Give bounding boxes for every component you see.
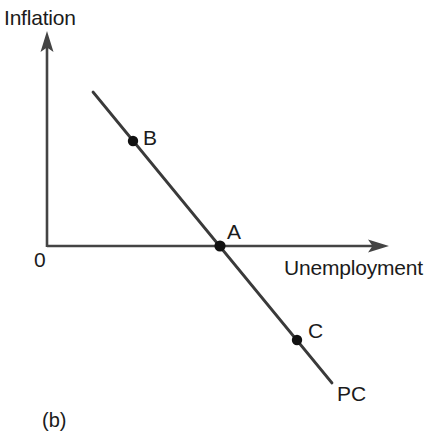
- point-label-a: A: [227, 221, 241, 242]
- point-label-c: C: [308, 320, 323, 341]
- point-label-b: B: [143, 127, 157, 148]
- phillips-curve-figure: Inflation Unemployment 0 B A C PC (b): [0, 0, 434, 435]
- phillips-curve-label: PC: [337, 383, 366, 404]
- data-point-b: [128, 136, 138, 146]
- figure-caption: (b): [42, 410, 66, 430]
- phillips-curve-chart: [0, 0, 434, 435]
- y-axis: [41, 31, 54, 247]
- data-point-a: [214, 240, 225, 251]
- x-axis-label: Unemployment: [284, 257, 423, 278]
- y-axis-label: Inflation: [4, 7, 76, 28]
- origin-label: 0: [34, 249, 46, 270]
- data-point-c: [292, 335, 302, 345]
